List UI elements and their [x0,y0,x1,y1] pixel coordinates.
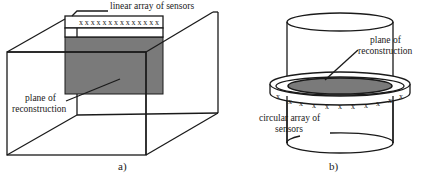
sensor-mark: x [299,99,303,108]
cylinder-bottom-back [330,133,393,143]
sensor-mark: x [376,99,380,108]
figure-canvas: x x x x x x x x x x x x x x linear array… [0,0,427,178]
caption-b: b) [329,160,339,173]
sensor-mark: x [364,101,368,110]
label-circular-array-line2: sensors [275,124,303,134]
cylinder-bottom-front [287,143,393,153]
label-plane-a-line2: reconstruction [12,104,67,114]
sensor-mark: x [312,101,316,110]
label-plane-b-line1: plane of [370,35,402,45]
sensor-mark: x [338,102,342,111]
caption-a: a) [118,160,127,173]
label-plane-b-line2: reconstruction [358,46,413,56]
sensor-mark: x [288,97,292,106]
label-circular-array-line1: circular array of [259,113,321,123]
plane-of-reconstruction-b [288,78,392,94]
diagram-a-linear-array [7,11,218,155]
sensor-mark: x [325,102,329,111]
plane-of-reconstruction-a [65,37,163,94]
sensor-mark: x [276,92,280,101]
label-plane-a-line1: plane of [25,93,57,103]
sensor-label-leader-a [72,11,108,16]
box-back-bottom-edge [77,113,218,115]
sensor-mark: x [399,92,403,101]
box-depth-edge-bottom-right [146,113,218,155]
label-linear-array: linear array of sensors [110,1,194,11]
sensor-marks-linear: x x x x x x x x x x x x x x [79,18,159,27]
box-depth-edge-bottom-left [7,115,77,155]
sensor-mark: x [351,102,355,111]
cylinder-bottom-back-left [287,136,300,143]
cylinder-top [287,13,393,31]
sensor-mark: x [388,96,392,105]
sensor-strip-gap [65,28,163,37]
box-depth-edge-top-left [7,19,65,52]
